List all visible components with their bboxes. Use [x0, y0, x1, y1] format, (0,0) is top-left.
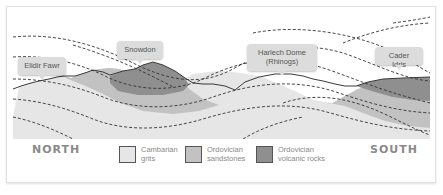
callout-cader-idris: Cader Idris [375, 47, 423, 65]
legend-label: Cambarian grits [141, 145, 178, 163]
legend-swatch [119, 146, 136, 163]
legend-label-line1: Ordovician [278, 145, 325, 154]
legend-item-cambrian-grits: Cambarian grits [119, 145, 178, 163]
legend-swatch [256, 146, 273, 163]
callout-snowdon: Snowdon [117, 41, 163, 59]
legend-item-ordovician-sandstones: Ordovician sandstones [185, 145, 245, 163]
legend-label-line2: grits [141, 154, 178, 163]
legend-swatch [185, 146, 202, 163]
callout-label-line1: Harlech Dome [253, 48, 311, 57]
legend-label-line2: sandstones [207, 154, 245, 163]
legend-item-ordovician-volcanic: Ordovician volcanic rocks [256, 145, 325, 163]
compass-south-label: SOUTH [370, 143, 418, 156]
callout-label: Elidir Fawr [24, 61, 59, 70]
legend-label-line1: Ordovician [207, 145, 245, 154]
legend-label: Ordovician volcanic rocks [278, 145, 325, 163]
callout-harlech-dome: Harlech Dome (Rhinogs) [247, 44, 317, 71]
legend-label: Ordovician sandstones [207, 145, 245, 163]
cross-section-diagram [13, 13, 430, 139]
callout-elidir-fawr: Elidir Fawr [18, 57, 66, 75]
callout-label-line2: (Rhinogs) [253, 57, 311, 66]
geology-cross-section [13, 13, 430, 139]
legend-label-line1: Cambarian [141, 145, 178, 154]
compass-north-label: NORTH [32, 143, 80, 156]
legend-label-line2: volcanic rocks [278, 154, 325, 163]
callout-label: Snowdon [124, 45, 155, 54]
